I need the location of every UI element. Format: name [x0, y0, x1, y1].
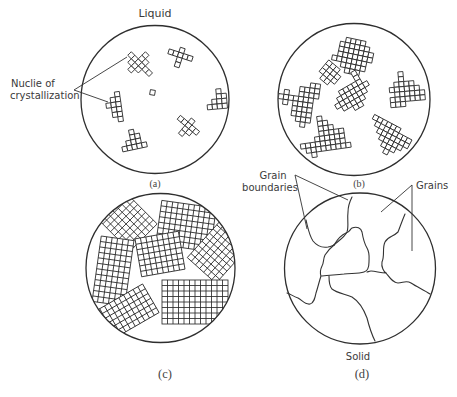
grains-label: Grains: [416, 180, 448, 191]
nuclei-label-line2: crystallization: [10, 90, 80, 101]
panel-a: Liquid: [10, 7, 229, 190]
crystal-grid-patch: [135, 231, 185, 277]
nucleus-left: [104, 91, 123, 123]
impinging-crystals: [92, 193, 253, 340]
liquid-label: Liquid: [138, 7, 171, 20]
panel-a-circle: [81, 26, 229, 174]
crystal-right: [388, 70, 426, 108]
grain-boundaries-label-line1: Grain: [259, 170, 286, 181]
nuclei-label-line1: Nuclie of: [11, 78, 55, 89]
grain-boundaries-label-line2: boundaries: [242, 182, 298, 193]
caption-d: (d): [355, 367, 370, 381]
panel-d: Grain boundaries Grains Solid (d): [242, 170, 448, 381]
nucleus-plus: [165, 44, 195, 71]
caption-c: (c): [158, 367, 172, 381]
growing-crystals: [275, 35, 426, 162]
grain-boundaries-leader-lines: [295, 175, 348, 229]
grain-boundaries: [287, 197, 430, 341]
nucleus-single: [150, 90, 156, 96]
panel-d-circle: [285, 193, 436, 344]
caption-a: (a): [149, 178, 160, 190]
nuclei-clusters: [104, 44, 227, 152]
solid-label: Solid: [346, 351, 370, 362]
crystal-grid-network: [92, 193, 253, 340]
crystal-grid-patch: [162, 280, 228, 324]
nucleus-x: [121, 45, 160, 84]
caption-b: (b): [353, 178, 365, 190]
solidification-diagram: Liquid: [0, 0, 457, 397]
nucleus-lower-right: [171, 112, 203, 143]
panel-c: (c): [86, 193, 253, 381]
panel-b: (b): [275, 24, 430, 191]
nucleus-lower-left: [119, 127, 148, 152]
nucleus-right: [206, 88, 228, 110]
